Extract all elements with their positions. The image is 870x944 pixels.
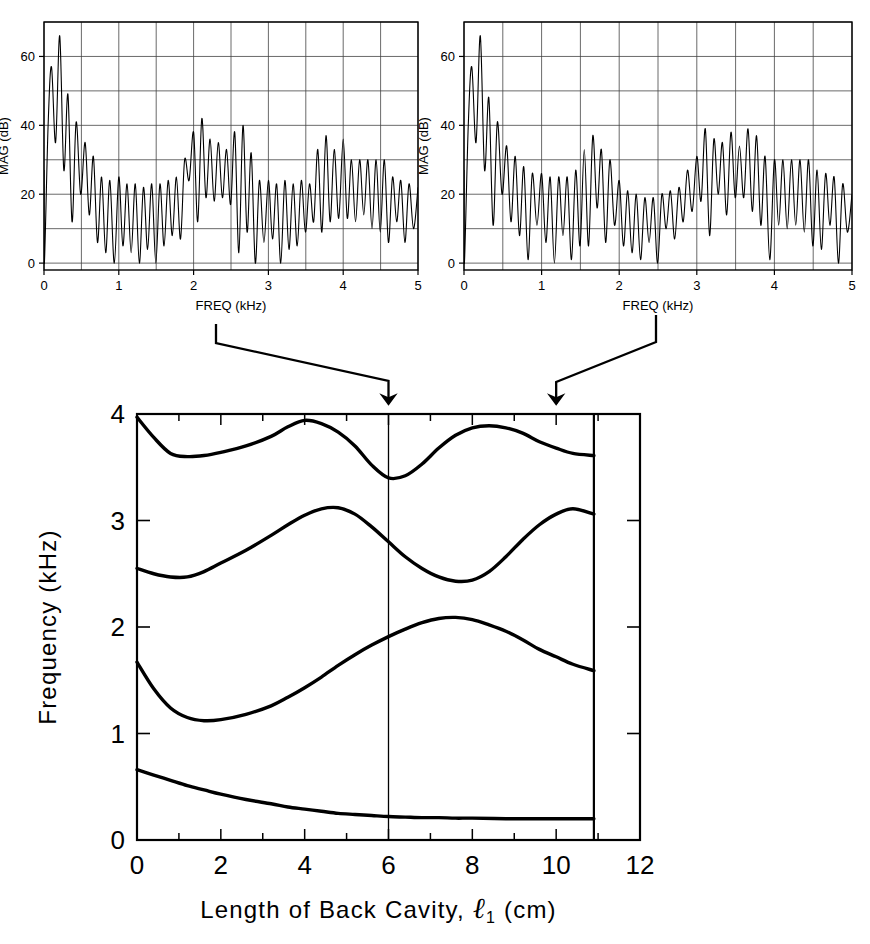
x-tick-label: 5 <box>848 278 855 293</box>
y-tick-label: 4 <box>111 399 125 429</box>
x-tick-label: 0 <box>40 278 47 293</box>
y-tick-label: 1 <box>111 719 125 749</box>
x-tick-label: 2 <box>616 278 623 293</box>
y-tick-label: 0 <box>111 825 125 855</box>
x-tick-label: 5 <box>414 278 421 293</box>
y-tick-label: 20 <box>441 187 455 202</box>
figure-root: 012345FREQ (kHz)0204060MAG (dB)012345FRE… <box>0 0 870 944</box>
x-tick-label: 6 <box>381 850 395 880</box>
y-tick-label: 2 <box>111 612 125 642</box>
spectrum-left-gridlines <box>44 22 418 270</box>
spectrum-left-x-axis-label: FREQ (kHz) <box>196 298 267 313</box>
x-tick-label: 10 <box>542 850 571 880</box>
connector-arrow-right-spectrum <box>556 315 656 404</box>
spectrum-right-x-axis-label: FREQ (kHz) <box>623 298 694 313</box>
x-tick-label: 12 <box>626 850 655 880</box>
x-tick-label: 2 <box>190 278 197 293</box>
spectrum-right-y-axis: 0204060MAG (dB) <box>416 49 464 271</box>
spectrum-left-x-axis: 012345FREQ (kHz) <box>40 270 421 313</box>
x-tick-label: 3 <box>265 278 272 293</box>
x-tick-label: 0 <box>460 278 467 293</box>
spectrum-right-gridlines <box>464 22 852 270</box>
x-tick-label: 1 <box>115 278 122 293</box>
x-tick-label: 3 <box>693 278 700 293</box>
formant-curve-F2 <box>137 617 594 720</box>
spectrum-left-y-axis-label: MAG (dB) <box>0 117 11 175</box>
formant-x-axis-label: Length of Back Cavity, ℓ1 (cm) <box>200 892 557 926</box>
figure-svg: 012345FREQ (kHz)0204060MAG (dB)012345FRE… <box>0 0 870 944</box>
formant-curves <box>137 417 594 819</box>
formant-x-axis: 024681012 <box>130 414 655 880</box>
y-tick-label: 60 <box>441 49 455 64</box>
y-tick-label: 0 <box>28 256 35 271</box>
y-tick-label: 20 <box>21 187 35 202</box>
connector-arrow-left-spectrum <box>216 324 389 404</box>
x-tick-label: 1 <box>538 278 545 293</box>
x-tick-label: 8 <box>465 850 479 880</box>
spectrum-right-y-axis-label: MAG (dB) <box>416 117 431 175</box>
formant-curve-F3 <box>137 507 594 581</box>
x-tick-label: 2 <box>214 850 228 880</box>
spectrum-left-y-axis: 0204060MAG (dB) <box>0 49 44 271</box>
y-tick-label: 0 <box>448 256 455 271</box>
spectrum-left-panel: 012345FREQ (kHz)0204060MAG (dB) <box>0 22 422 313</box>
formant-y-axis-label: Frequency (kHz) <box>34 529 61 724</box>
x-tick-label: 4 <box>297 850 311 880</box>
x-tick-label: 4 <box>340 278 347 293</box>
x-tick-label: 0 <box>130 850 144 880</box>
x-tick-label: 4 <box>771 278 778 293</box>
spectrum-right-panel: 012345FREQ (kHz)0204060MAG (dB) <box>416 22 856 313</box>
formant-curve-F1 <box>137 770 594 819</box>
spectrum-connectors <box>216 315 656 404</box>
formant-curve-F4 <box>137 417 594 478</box>
y-tick-label: 40 <box>441 118 455 133</box>
y-tick-label: 60 <box>21 49 35 64</box>
spectrum-right-x-axis: 012345FREQ (kHz) <box>460 270 855 313</box>
formant-map-panel: 02468101201234Frequency (kHz)Length of B… <box>34 399 654 926</box>
y-tick-label: 40 <box>21 118 35 133</box>
y-tick-label: 3 <box>111 506 125 536</box>
